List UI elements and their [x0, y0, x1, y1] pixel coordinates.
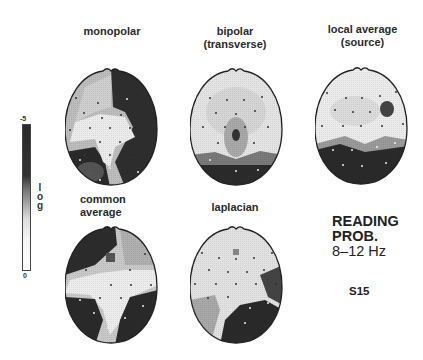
- subject-label: S15: [349, 285, 369, 297]
- electrode-dots: [69, 91, 404, 299]
- electrode-dots-overlay: [0, 0, 423, 360]
- annotation-title: READING PROB. 8–12 Hz: [332, 214, 399, 259]
- annotation-line2: PROB.: [332, 229, 399, 244]
- annotation-line1: READING: [332, 214, 399, 229]
- annotation-line3: 8–12 Hz: [332, 244, 399, 259]
